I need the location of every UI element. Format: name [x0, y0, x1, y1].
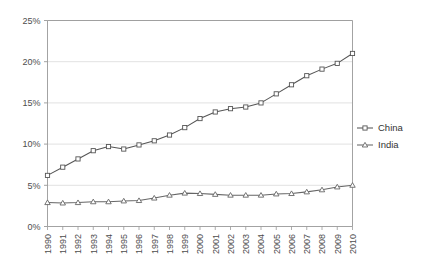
x-axis-tick-label: 1990: [43, 234, 53, 254]
legend-label: India: [378, 139, 399, 150]
data-point-marker: [45, 173, 49, 177]
data-point-marker: [363, 126, 367, 130]
x-axis-tick-label: 2009: [333, 234, 343, 254]
data-point-marker: [259, 101, 263, 105]
x-axis-tick-label: 1999: [180, 234, 190, 254]
chart-background: [0, 0, 421, 270]
x-axis-tick-label: 2007: [302, 234, 312, 254]
data-point-marker: [335, 61, 339, 65]
data-point-marker: [152, 139, 156, 143]
data-point-marker: [76, 157, 80, 161]
legend-label: China: [378, 122, 404, 133]
data-point-marker: [91, 149, 95, 153]
y-axis-tick-label: 5%: [27, 181, 40, 191]
x-axis-tick-marks: [48, 227, 353, 231]
y-axis-tick-label: 20%: [22, 57, 40, 67]
x-axis-tick-label: 2001: [211, 234, 221, 254]
x-axis-tick-label: 1994: [104, 234, 114, 254]
data-point-marker: [122, 147, 126, 151]
x-axis-tick-label: 2010: [348, 234, 358, 254]
x-axis-tick-label: 2008: [317, 234, 327, 254]
x-axis-tick-label: 2000: [195, 234, 205, 254]
x-axis-tick-label: 2004: [256, 234, 266, 254]
x-axis-tick-label: 1991: [58, 234, 68, 254]
x-axis-tick-label: 2002: [226, 234, 236, 254]
data-point-marker: [183, 126, 187, 130]
data-point-marker: [289, 83, 293, 87]
x-axis-tick-label: 1998: [165, 234, 175, 254]
y-axis-tick-label: 25%: [22, 16, 40, 26]
data-point-marker: [350, 51, 354, 55]
y-axis-tick-label: 10%: [22, 139, 40, 149]
data-point-marker: [198, 116, 202, 120]
data-point-marker: [167, 133, 171, 137]
x-axis-tick-label: 1993: [89, 234, 99, 254]
data-point-marker: [244, 105, 248, 109]
data-point-marker: [228, 107, 232, 111]
x-axis-tick-labels: 1990199119921993199419951996199719981999…: [43, 234, 358, 254]
data-point-marker: [61, 165, 65, 169]
x-axis-tick-label: 2006: [287, 234, 297, 254]
data-point-marker: [213, 110, 217, 114]
x-axis-tick-label: 2003: [241, 234, 251, 254]
data-point-marker: [320, 67, 324, 71]
data-point-marker: [305, 74, 309, 78]
x-axis-tick-label: 1992: [73, 234, 83, 254]
data-point-marker: [137, 143, 141, 147]
x-axis-tick-label: 1997: [150, 234, 160, 254]
x-axis-tick-label: 2005: [272, 234, 282, 254]
chart-container: 0%5%10%15%20%25% 19901991199219931994199…: [0, 0, 421, 270]
y-axis-tick-label: 15%: [22, 98, 40, 108]
x-axis-tick-label: 1995: [119, 234, 129, 254]
line-chart: 0%5%10%15%20%25% 19901991199219931994199…: [0, 0, 421, 270]
y-axis-tick-label: 0%: [27, 222, 40, 232]
data-point-marker: [274, 92, 278, 96]
x-axis-tick-label: 1996: [134, 234, 144, 254]
data-point-marker: [106, 144, 110, 148]
